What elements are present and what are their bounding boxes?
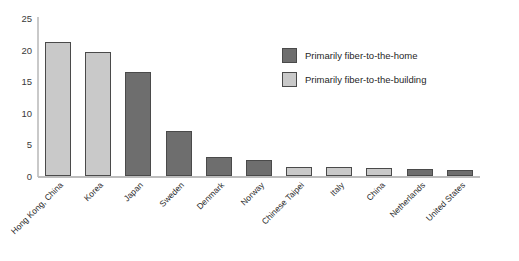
bar-slot (38, 18, 78, 176)
bar-united-states[interactable] (447, 170, 473, 176)
bar-china[interactable] (366, 168, 392, 176)
bar-denmark[interactable] (206, 157, 232, 176)
bar-slot (239, 18, 279, 176)
legend-item-home[interactable]: Primarily fiber-to-the-home (282, 48, 426, 63)
y-axis-tick-label: 20 (2, 45, 32, 54)
legend-label: Primarily fiber-to-the-home (305, 50, 417, 61)
bar-slot (199, 18, 239, 176)
bar-korea[interactable] (85, 52, 111, 177)
y-axis-tick-label: 10 (2, 108, 32, 117)
bar-japan[interactable] (125, 72, 151, 176)
bar-slot (279, 18, 319, 176)
y-axis-tick-label: 15 (2, 77, 32, 86)
bar-series-group (38, 18, 480, 176)
bar-sweden[interactable] (166, 131, 192, 177)
y-axis-tick-labels: 0510152025 (0, 18, 32, 176)
bar-hong-kong-china[interactable] (45, 42, 71, 176)
bar-chinese-taipei[interactable] (286, 167, 312, 176)
bar-slot (319, 18, 359, 176)
bar-slot (400, 18, 440, 176)
bar-chart: 0510152025 Hong Kong, ChinaKoreaJapanSwe… (0, 0, 519, 261)
x-axis-category-labels: Hong Kong, ChinaKoreaJapanSwedenDenmarkN… (38, 180, 480, 260)
y-axis-tick-label: 0 (2, 172, 32, 181)
bar-slot (118, 18, 158, 176)
y-axis-tick-label: 5 (2, 140, 32, 149)
bar-norway[interactable] (246, 160, 272, 176)
bar-italy[interactable] (326, 167, 352, 176)
legend-label: Primarily fiber-to-the-building (305, 74, 426, 85)
legend-item-building[interactable]: Primarily fiber-to-the-building (282, 72, 426, 87)
bar-slot (440, 18, 480, 176)
legend-swatch-icon (282, 72, 297, 87)
bar-slot (359, 18, 399, 176)
x-axis-line (38, 176, 480, 178)
bar-slot (78, 18, 118, 176)
legend-swatch-icon (282, 48, 297, 63)
y-axis-tick-label: 25 (2, 14, 32, 23)
bar-netherlands[interactable] (407, 169, 433, 176)
chart-legend: Primarily fiber-to-the-homePrimarily fib… (282, 48, 426, 87)
bar-slot (159, 18, 199, 176)
